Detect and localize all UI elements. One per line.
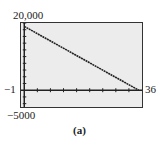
- calculator-graph-screen: [20, 22, 143, 108]
- figure-caption: (a): [0, 124, 159, 136]
- plot-area: [21, 23, 142, 107]
- ymax-label: 20,000: [13, 10, 43, 21]
- ymin-label: −5000: [7, 110, 35, 121]
- xmax-label: 36: [145, 84, 156, 95]
- series-line: [24, 26, 138, 90]
- xmin-label: −1: [4, 84, 16, 95]
